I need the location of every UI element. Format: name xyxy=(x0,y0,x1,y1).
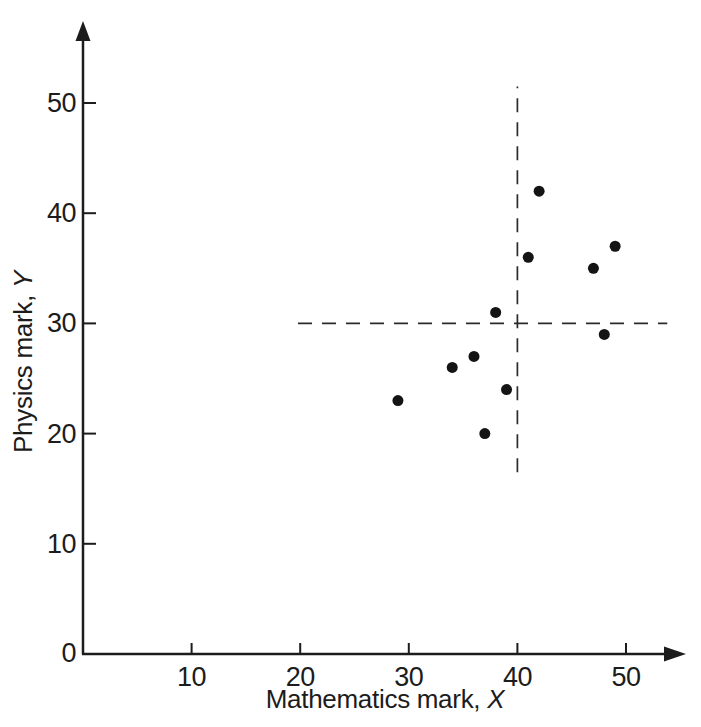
data-point xyxy=(479,428,490,439)
data-point xyxy=(468,351,479,362)
origin-tick-label: 0 xyxy=(61,638,76,668)
y-tick-label: 10 xyxy=(47,529,76,559)
x-axis-arrowhead-icon xyxy=(664,647,686,662)
y-axis-label-text: Physics mark, xyxy=(8,288,38,453)
y-tick-label: 30 xyxy=(47,308,76,338)
data-point xyxy=(392,395,403,406)
y-axis-label: Physics mark, Y xyxy=(8,269,38,453)
x-axis-label-text: Mathematics mark, xyxy=(266,684,487,714)
data-point xyxy=(534,186,545,197)
x-tick-label: 50 xyxy=(611,662,640,692)
axis-ticks: 10203040501020304050 xyxy=(47,88,641,692)
data-point xyxy=(610,241,621,252)
y-axis-arrowhead-icon xyxy=(76,21,91,41)
data-point xyxy=(523,252,534,263)
data-points xyxy=(392,186,620,439)
data-point xyxy=(599,329,610,340)
data-point xyxy=(501,384,512,395)
x-tick-label: 40 xyxy=(503,662,532,692)
x-axis-label: Mathematics mark, X xyxy=(266,684,506,714)
y-tick-label: 50 xyxy=(47,88,76,118)
scatter-plot: 10203040501020304050 0 Mathematics mark,… xyxy=(0,0,701,727)
y-axis-label-variable: Y xyxy=(8,269,38,288)
scatter-plot-figure: 10203040501020304050 0 Mathematics mark,… xyxy=(0,0,701,727)
mean-lines xyxy=(298,86,667,472)
y-tick-label: 20 xyxy=(47,419,76,449)
x-tick-label: 10 xyxy=(177,662,206,692)
data-point xyxy=(490,307,501,318)
y-tick-label: 40 xyxy=(47,198,76,228)
axes xyxy=(76,21,687,662)
x-axis-label-variable: X xyxy=(486,684,506,714)
data-point xyxy=(588,263,599,274)
data-point xyxy=(447,362,458,373)
